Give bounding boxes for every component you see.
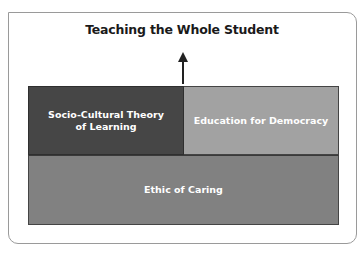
box-label: Education for Democracy xyxy=(194,115,328,127)
arrow-shaft xyxy=(182,60,184,84)
box-ethic-of-caring: Ethic of Caring xyxy=(28,155,339,225)
diagram-title: Teaching the Whole Student xyxy=(0,22,364,37)
box-education-for-democracy: Education for Democracy xyxy=(184,86,339,155)
box-socio-cultural-theory: Socio-Cultural Theory of Learning xyxy=(28,86,184,155)
box-label: Ethic of Caring xyxy=(144,184,223,196)
box-label-line1: Socio-Cultural Theory xyxy=(48,109,164,121)
box-label-line2: of Learning xyxy=(48,121,164,133)
